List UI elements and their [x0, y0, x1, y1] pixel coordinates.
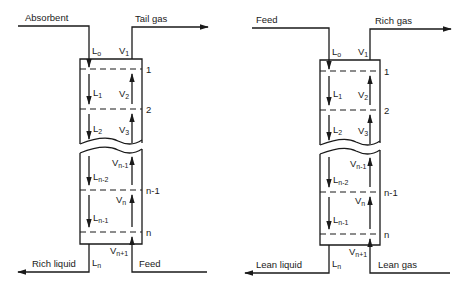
absorbent-label: Absorbent: [25, 12, 69, 23]
vapor-label-V2: V2: [119, 88, 129, 100]
tail-gas-label: Tail gas: [135, 13, 167, 24]
liquid-label-Ln-1: Ln-1: [333, 214, 349, 226]
vapor-label-Vn: Vn: [116, 194, 126, 206]
tray-label-n: n: [146, 227, 151, 238]
vapor-label-Vn: Vn: [355, 195, 365, 207]
tray-label-2: 2: [146, 104, 151, 115]
tray-label-2: 2: [384, 105, 389, 116]
feed-label: Feed: [256, 14, 278, 25]
vapor-label-Vn-1: Vn-1: [112, 157, 129, 169]
vapor-label-V3: V3: [358, 125, 368, 137]
liquid-label-L1: L1: [93, 87, 102, 99]
break-line-upper: [320, 139, 380, 145]
absorbent-inlet-line: [18, 26, 89, 67]
stripper-column: Feed Rich gas 1 2 n-1 n Lean liquid Lean…: [245, 14, 451, 273]
liquid-label-L0: Lo: [92, 45, 101, 57]
lean-gas-label: Lean gas: [378, 259, 417, 270]
break-line-upper: [80, 138, 142, 144]
vapor-label-V1: V1: [358, 46, 368, 58]
liquid-label-L2: L2: [93, 123, 102, 135]
vapor-label-Vn+1: Vn+1: [349, 246, 367, 258]
rich-gas-label: Rich gas: [375, 15, 412, 26]
liquid-label-Ln-2: Ln-2: [333, 174, 349, 186]
tray-label-1: 1: [384, 66, 389, 77]
vapor-label-Vn-1: Vn-1: [350, 158, 367, 170]
tray-label-1: 1: [146, 64, 151, 75]
absorber-stripper-diagram: Absorbent Tail gas 1 2 n-1 n Rich liquid: [0, 0, 468, 288]
liquid-label-Ln: Ln: [332, 258, 341, 270]
liquid-label-Ln-2: Ln-2: [93, 171, 109, 183]
vapor-label-Vn+1: Vn+1: [110, 245, 128, 257]
vapor-label-V1: V1: [119, 45, 129, 57]
break-line-lower: [80, 147, 142, 153]
rich-gas-outlet-line: [370, 29, 451, 60]
rich-liquid-label: Rich liquid: [32, 258, 76, 269]
liquid-label-Ln-1: Ln-1: [93, 212, 109, 224]
feed-label: Feed: [139, 258, 161, 269]
liquid-label-L2: L2: [333, 124, 342, 136]
liquid-label-Ln: Ln: [92, 257, 101, 269]
absorber-column: Absorbent Tail gas 1 2 n-1 n Rich liquid: [18, 12, 208, 272]
lean-liquid-label: Lean liquid: [256, 259, 302, 270]
tray-label-n-1: n-1: [384, 187, 398, 198]
liquid-label-L1: L1: [333, 88, 342, 100]
tail-gas-outlet-line: [132, 27, 208, 59]
tray-label-n-1: n-1: [146, 185, 160, 196]
vapor-label-V3: V3: [119, 124, 129, 136]
liquid-label-L0: Lo: [332, 46, 341, 58]
break-line-lower: [320, 148, 380, 154]
tray-label-n: n: [384, 229, 389, 240]
feed-inlet-line: [252, 28, 329, 69]
vapor-label-V2: V2: [358, 89, 368, 101]
